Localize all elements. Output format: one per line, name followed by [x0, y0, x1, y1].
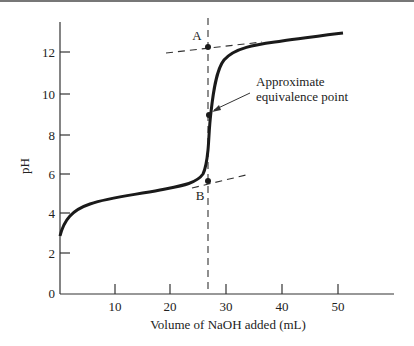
point-a-label: A	[192, 28, 202, 43]
arrow-head-icon	[212, 105, 221, 112]
x-tick-labels: 10 20 30 40 50	[109, 299, 345, 314]
x-tick-10: 10	[109, 299, 122, 314]
y-tick-2: 2	[49, 246, 56, 261]
x-tick-50: 50	[332, 299, 345, 314]
equivalence-label-line2: equivalence point	[256, 89, 348, 104]
axes	[60, 22, 394, 294]
reference-lines	[166, 18, 262, 294]
titration-chart: 0 2 4 6 8 10 12 10 20 30 40 50 Volume of…	[0, 0, 414, 346]
point-a-marker	[205, 44, 211, 50]
y-tick-0: 0	[49, 286, 56, 301]
equivalence-point-marker	[206, 112, 212, 118]
y-tick-4: 4	[49, 206, 56, 221]
x-axis-title: Volume of NaOH added (mL)	[150, 317, 306, 332]
y-tick-labels: 0 2 4 6 8 10 12	[42, 45, 56, 301]
y-tick-12: 12	[42, 45, 55, 60]
equivalence-label-line1: Approximate	[256, 74, 325, 89]
x-tick-40: 40	[276, 299, 289, 314]
point-b-marker	[205, 178, 211, 184]
titration-curve	[60, 33, 343, 236]
y-tick-6: 6	[49, 167, 56, 182]
y-axis-title: pH	[17, 158, 32, 174]
y-tick-8: 8	[49, 128, 56, 143]
point-b-label: B	[196, 188, 205, 203]
x-tick-20: 20	[164, 299, 177, 314]
y-tick-10: 10	[42, 87, 55, 102]
x-tick-30: 30	[220, 299, 233, 314]
